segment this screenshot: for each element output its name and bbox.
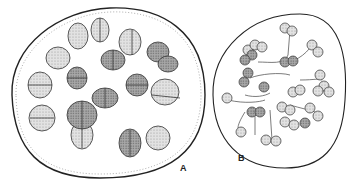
panel-label-a: A <box>180 163 187 173</box>
panel-a <box>12 8 205 178</box>
panel-label-b: B <box>238 153 245 163</box>
diagram-canvas <box>0 0 355 184</box>
panel-b <box>213 14 346 168</box>
